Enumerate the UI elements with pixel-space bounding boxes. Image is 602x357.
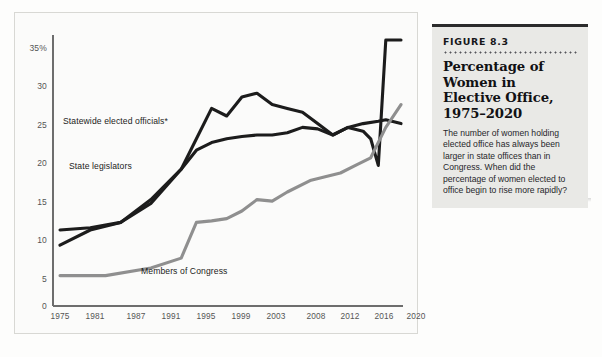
ytick-label: 35% bbox=[17, 43, 47, 53]
xtick-label: 1975 bbox=[40, 311, 80, 321]
xtick-label: 1999 bbox=[221, 311, 261, 321]
line-chart bbox=[15, 13, 419, 335]
dotted-rule bbox=[443, 51, 577, 54]
xtick-label: 2020 bbox=[396, 311, 436, 321]
xtick-label: 1981 bbox=[75, 311, 115, 321]
caption-card: FIGURE 8.3 Percentage of Women in Electi… bbox=[432, 24, 588, 208]
xtick-label: 1987 bbox=[116, 311, 156, 321]
chart-panel: 35% 30 25 20 15 10 5 0 1975 1981 1987 19… bbox=[14, 12, 418, 334]
series-layer bbox=[60, 40, 401, 276]
ytick-label: 30 bbox=[17, 81, 47, 91]
xtick-label: 2003 bbox=[256, 311, 296, 321]
ytick-label: 10 bbox=[17, 235, 47, 245]
ytick-label: 15 bbox=[17, 197, 47, 207]
series-label-members-of-congress: Members of Congress bbox=[141, 266, 227, 276]
figure-page: 35% 30 25 20 15 10 5 0 1975 1981 1987 19… bbox=[0, 0, 602, 357]
figure-description: The number of women holding elected offi… bbox=[443, 128, 577, 196]
figure-number: FIGURE 8.3 bbox=[443, 36, 577, 47]
xtick-label: 1991 bbox=[151, 311, 191, 321]
ytick-label: 0 bbox=[17, 301, 47, 311]
ytick-label: 20 bbox=[17, 158, 47, 168]
ytick-label: 5 bbox=[17, 274, 47, 284]
xtick-label: 1995 bbox=[186, 311, 226, 321]
series-line-1 bbox=[60, 120, 401, 230]
figure-title: Percentage of Women in Elective Office, … bbox=[443, 59, 577, 121]
series-line-2 bbox=[60, 105, 401, 276]
series-line-0 bbox=[60, 40, 401, 245]
series-label-statewide-elected-officials: Statewide elected officials* bbox=[63, 116, 168, 126]
series-label-state-legislators: State legislators bbox=[69, 161, 132, 171]
ytick-label: 25 bbox=[17, 120, 47, 130]
